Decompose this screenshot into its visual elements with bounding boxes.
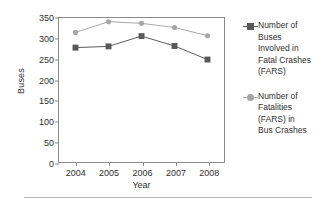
x-axis-tick-mark <box>143 162 144 166</box>
legend-square-icon <box>243 21 258 32</box>
data-point-square <box>139 33 145 39</box>
y-axis-tick-mark <box>55 164 59 165</box>
data-point-square <box>106 43 112 49</box>
x-axis-tick-label: 2004 <box>66 168 86 178</box>
y-axis-title: Buses <box>16 51 26 111</box>
y-axis-tick-mark <box>55 101 59 102</box>
y-axis-tick-mark <box>55 18 59 19</box>
legend-label: Number of Buses Involved in Fatal Crashe… <box>258 20 311 78</box>
plot-area: Buses 0501001502002503003502004200520062… <box>0 0 240 190</box>
bottom-divider <box>24 197 312 198</box>
y-axis-tick-mark <box>55 59 59 60</box>
x-axis-tick-label: 2006 <box>132 168 152 178</box>
plot-frame: 0501001502002503003502004200520062007200… <box>58 17 225 163</box>
legend-entry: Number of Buses Involved in Fatal Crashe… <box>243 20 335 78</box>
x-axis-tick-mark <box>76 162 77 166</box>
data-point-square <box>73 45 79 51</box>
x-axis-tick-mark <box>176 162 177 166</box>
legend-label: Number of Fatalities (FARS) in Bus Crash… <box>258 91 307 137</box>
y-axis-tick-mark <box>55 122 59 123</box>
data-point-circle <box>139 21 144 26</box>
chart-legend: Number of Buses Involved in Fatal Crashe… <box>243 20 335 150</box>
data-series <box>73 33 211 62</box>
legend-circle-icon <box>243 92 258 103</box>
x-axis-tick-label: 2008 <box>199 168 219 178</box>
x-axis-tick-mark <box>109 162 110 166</box>
x-axis-tick-label: 2007 <box>166 168 186 178</box>
data-point-square <box>205 57 211 63</box>
y-axis-tick-mark <box>55 38 59 39</box>
data-point-circle <box>205 33 210 38</box>
data-point-circle <box>73 30 78 35</box>
y-axis-tick-mark <box>55 143 59 144</box>
series-layer <box>59 18 224 162</box>
data-point-circle <box>172 25 177 30</box>
chart-figure: Buses 0501001502002503003502004200520062… <box>0 0 335 206</box>
x-axis-tick-label: 2005 <box>99 168 119 178</box>
legend-entry: Number of Fatalities (FARS) in Bus Crash… <box>243 91 335 137</box>
x-axis-title: Year <box>58 180 225 190</box>
x-axis-tick-mark <box>209 162 210 166</box>
y-axis-tick-mark <box>55 80 59 81</box>
data-point-square <box>172 43 178 49</box>
data-point-circle <box>106 19 111 24</box>
series-line <box>76 36 208 59</box>
